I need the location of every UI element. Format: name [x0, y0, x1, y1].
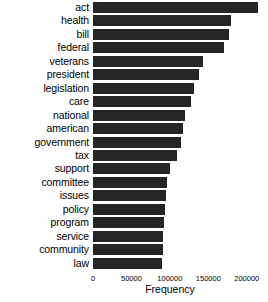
- category-label: issues: [1, 190, 89, 201]
- category-label: tax: [1, 150, 89, 161]
- bar: [93, 56, 203, 67]
- category-label: act: [1, 2, 89, 13]
- x-axis: Frequency 050000100000150000200000: [93, 270, 268, 302]
- bar-row: [93, 190, 266, 201]
- bar-row: [93, 204, 266, 215]
- category-label: support: [1, 163, 89, 174]
- category-label: committee: [1, 177, 89, 188]
- category-label: health: [1, 15, 89, 26]
- category-label: president: [1, 69, 89, 80]
- category-label: care: [1, 96, 89, 107]
- bar-row: [93, 15, 266, 26]
- bar: [93, 110, 185, 121]
- bar-row: [93, 83, 266, 94]
- category-label: policy: [1, 204, 89, 215]
- category-label: law: [1, 258, 89, 269]
- bar: [93, 258, 162, 269]
- bar: [93, 204, 165, 215]
- bar: [93, 42, 224, 53]
- bar-row: [93, 42, 266, 53]
- bar-row: [93, 217, 266, 228]
- bar-row: [93, 56, 266, 67]
- bar-row: [93, 244, 266, 255]
- x-tick-label: 150000: [196, 274, 221, 283]
- bar: [93, 29, 229, 40]
- bar: [93, 2, 258, 13]
- bar-row: [93, 110, 266, 121]
- bar-row: [93, 163, 266, 174]
- bar-chart: acthealthbillfederalveteranspresidentleg…: [0, 0, 268, 302]
- category-label: bill: [1, 29, 89, 40]
- bar-row: [93, 258, 266, 269]
- category-label: government: [1, 137, 89, 148]
- bar-row: [93, 69, 266, 80]
- category-label: program: [1, 217, 89, 228]
- x-tick-label: 100000: [157, 274, 182, 283]
- category-label: veterans: [1, 56, 89, 67]
- y-axis-category-labels: acthealthbillfederalveteranspresidentleg…: [0, 2, 89, 270]
- category-label: service: [1, 231, 89, 242]
- bar: [93, 177, 167, 188]
- bar: [93, 83, 194, 94]
- category-label: federal: [1, 42, 89, 53]
- bar: [93, 123, 183, 134]
- bar: [93, 217, 164, 228]
- x-tick-label: 200000: [234, 274, 259, 283]
- bar: [93, 150, 177, 161]
- bar-row: [93, 29, 266, 40]
- bar-row: [93, 123, 266, 134]
- bar-row: [93, 177, 266, 188]
- bar: [93, 137, 181, 148]
- x-tick-label: 0: [91, 274, 95, 283]
- bar-row: [93, 150, 266, 161]
- bar: [93, 163, 170, 174]
- bar-row: [93, 231, 266, 242]
- bar-row: [93, 96, 266, 107]
- bar: [93, 96, 191, 107]
- x-axis-title: Frequency: [145, 283, 195, 295]
- bar: [93, 15, 231, 26]
- category-label: community: [1, 244, 89, 255]
- category-label: american: [1, 123, 89, 134]
- bar: [93, 244, 163, 255]
- bar-row: [93, 2, 266, 13]
- plot-area: [93, 2, 266, 270]
- x-tick-label: 50000: [121, 274, 142, 283]
- bar: [93, 231, 163, 242]
- category-label: national: [1, 110, 89, 121]
- category-label: legislation: [1, 83, 89, 94]
- bar: [93, 69, 199, 80]
- bar-row: [93, 137, 266, 148]
- bar: [93, 190, 166, 201]
